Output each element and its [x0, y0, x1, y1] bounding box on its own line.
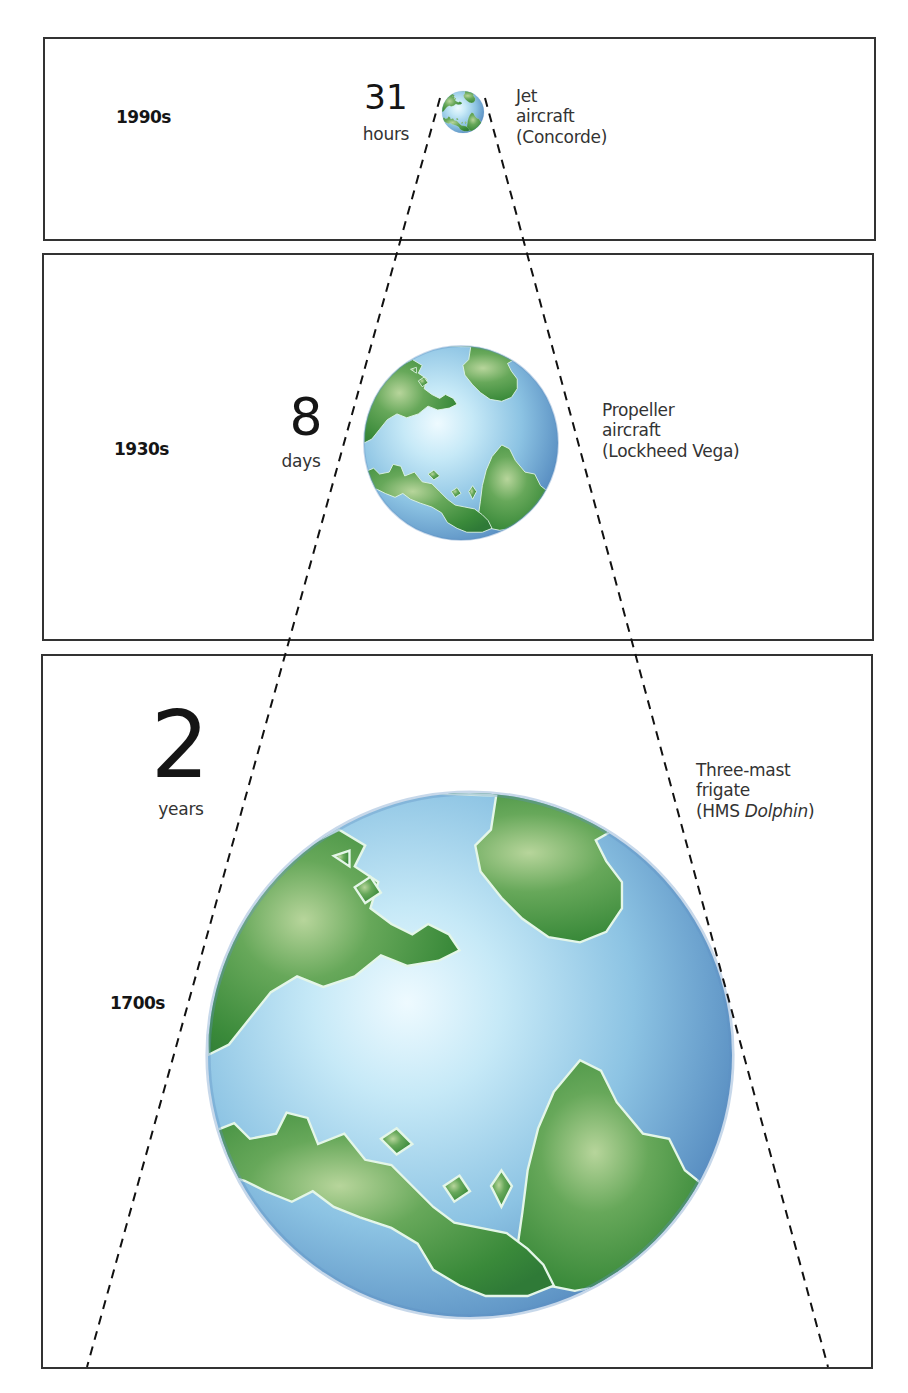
duration-value-1990s: 31	[356, 80, 416, 114]
era-label-1990s: 1990s	[116, 107, 171, 127]
duration-unit-1990s: hours	[352, 124, 420, 144]
vehicle-label-1930s: Propeller aircraft (Lockheed Vega)	[602, 400, 739, 461]
duration-unit-1700s: years	[148, 799, 214, 819]
vehicle-label-1990s: Jet aircraft (Concorde)	[516, 86, 607, 147]
duration-value-1930s: 8	[276, 391, 336, 443]
era-label-1700s: 1700s	[110, 993, 165, 1013]
panel-1990s	[43, 37, 876, 241]
duration-unit-1930s: days	[270, 451, 332, 471]
era-label-1930s: 1930s	[114, 439, 169, 459]
duration-value-1700s: 2	[140, 700, 220, 792]
vehicle-label-1700s: Three-mast frigate (HMS Dolphin)	[696, 760, 814, 821]
